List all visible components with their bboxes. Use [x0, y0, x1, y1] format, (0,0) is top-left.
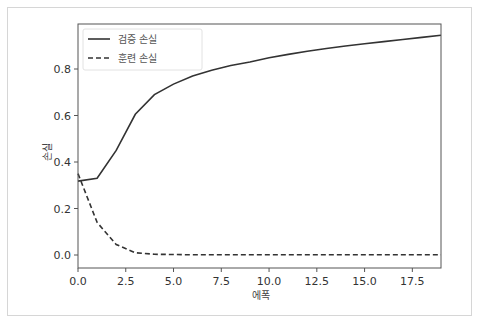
y-tick-label: 0.6 [54, 110, 72, 123]
y-tick-label: 0.8 [54, 63, 72, 76]
y-tick-label: 0.4 [54, 156, 72, 169]
legend: 검증 손실 훈련 손실 [83, 29, 202, 70]
x-tick-label: 2.5 [117, 275, 135, 288]
x-axis-ticks: 0.02.55.07.510.012.515.017.5 [69, 268, 424, 288]
x-tick-label: 15.0 [352, 275, 377, 288]
legend-label-validation: 검증 손실 [118, 34, 157, 45]
x-axis-label: 에폭 [252, 290, 270, 301]
x-tick-label: 7.5 [213, 275, 231, 288]
series-line-1 [78, 174, 441, 255]
y-axis-label: 손실 [42, 143, 53, 161]
x-tick-label: 17.5 [400, 275, 425, 288]
y-axis-ticks: 0.00.20.40.60.8 [54, 63, 79, 262]
x-tick-label: 0.0 [69, 275, 87, 288]
y-tick-label: 0.2 [54, 203, 72, 216]
x-tick-label: 12.5 [305, 275, 330, 288]
x-tick-label: 5.0 [165, 275, 183, 288]
line-chart: 0.02.55.07.510.012.515.017.5 0.00.20.40.… [0, 0, 478, 324]
x-tick-label: 10.0 [257, 275, 282, 288]
y-tick-label: 0.0 [54, 249, 72, 262]
legend-label-training: 훈련 손실 [118, 52, 157, 64]
